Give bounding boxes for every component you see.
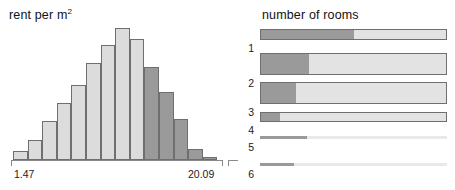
rooms-bar[interactable] bbox=[260, 163, 447, 166]
rooms-row-label: 6 bbox=[238, 168, 254, 180]
rooms-bar-highlighted-segment[interactable] bbox=[261, 113, 280, 121]
rooms-row[interactable]: 5 bbox=[232, 136, 455, 157]
rent-histogram-title-text: rent per m bbox=[9, 8, 67, 22]
rooms-bar-highlighted-segment[interactable] bbox=[260, 136, 307, 139]
rooms-row-label: 5 bbox=[238, 141, 254, 153]
rooms-bar[interactable] bbox=[260, 53, 447, 75]
histogram-bar[interactable] bbox=[144, 67, 159, 160]
rooms-bar[interactable] bbox=[260, 112, 447, 122]
histogram-bar[interactable] bbox=[71, 85, 86, 160]
rent-histogram-title: rent per m2 bbox=[9, 8, 72, 22]
rooms-bar-highlighted-segment[interactable] bbox=[261, 54, 309, 74]
histogram-bar[interactable] bbox=[130, 39, 145, 160]
rent-axis-min-label: 1.47 bbox=[14, 168, 34, 180]
histogram-bar[interactable] bbox=[86, 63, 101, 160]
rooms-row[interactable]: 6 bbox=[232, 163, 455, 184]
histogram-bar[interactable] bbox=[188, 149, 203, 160]
rent-histogram-panel: rent per m2 1.47 20.09 bbox=[0, 0, 232, 190]
rent-histogram-plot-area[interactable] bbox=[13, 28, 218, 160]
rent-histogram-title-superscript: 2 bbox=[67, 7, 72, 16]
rooms-bar-highlighted-segment[interactable] bbox=[260, 163, 294, 166]
histogram-bar[interactable] bbox=[159, 92, 174, 160]
rooms-bar-highlighted-segment[interactable] bbox=[261, 83, 296, 103]
histogram-bar[interactable] bbox=[101, 45, 116, 161]
histogram-bar[interactable] bbox=[13, 151, 28, 160]
rooms-bar-highlighted-segment[interactable] bbox=[261, 30, 354, 39]
histogram-bar[interactable] bbox=[28, 140, 43, 160]
histogram-bar[interactable] bbox=[115, 28, 130, 160]
rooms-spineplot-panel: number of rooms 123456 bbox=[232, 0, 455, 190]
rent-histogram-x-axis bbox=[11, 160, 223, 166]
rent-axis-max-label: 20.09 bbox=[188, 168, 214, 180]
histogram-bar[interactable] bbox=[42, 121, 57, 160]
rooms-bar[interactable] bbox=[260, 29, 447, 40]
rooms-bar[interactable] bbox=[260, 136, 447, 139]
rooms-spineplot-title: number of rooms bbox=[262, 8, 359, 22]
histogram-bar[interactable] bbox=[174, 119, 189, 160]
rooms-bar[interactable] bbox=[260, 82, 447, 104]
histogram-bar[interactable] bbox=[57, 103, 72, 160]
visualization-root: rent per m2 1.47 20.09 number of rooms 1… bbox=[0, 0, 455, 190]
rooms-row-label: 4 bbox=[238, 124, 254, 136]
